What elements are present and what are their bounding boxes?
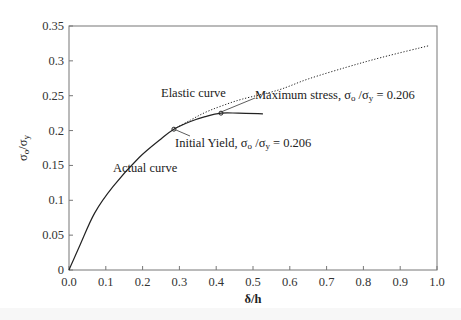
x-axis-ticks: 0.00.10.20.30.40.50.60.70.80.91.0 xyxy=(61,266,445,289)
x-axis-label: δ/h xyxy=(245,292,262,306)
x-tick-label: 0.5 xyxy=(245,275,261,289)
y-tick-label: 0.2 xyxy=(48,124,64,138)
y-tick-label: 0.3 xyxy=(48,54,64,68)
initial-yield-label: Initial Yield, σo /σy = 0.206 xyxy=(175,136,311,151)
x-tick-label: 0.9 xyxy=(392,275,408,289)
x-tick-label: 0.4 xyxy=(208,275,224,289)
chart: 00.050.10.150.20.250.30.35 0.00.10.20.30… xyxy=(0,0,461,320)
x-tick-label: 0.2 xyxy=(135,275,151,289)
data-series xyxy=(69,46,430,270)
x-tick-label: 0.8 xyxy=(356,275,372,289)
y-tick-label: 0.25 xyxy=(42,89,64,103)
x-tick-label: 0.0 xyxy=(61,275,77,289)
x-tick-label: 0.7 xyxy=(319,275,335,289)
max-stress-label: Maximum stress, σo /σy = 0.206 xyxy=(255,88,415,103)
y-tick-label: 0.15 xyxy=(42,158,64,172)
x-tick-label: 0.6 xyxy=(282,275,298,289)
max-stress-leader-line xyxy=(221,98,255,112)
elastic-curve-label: Elastic curve xyxy=(161,86,226,100)
actual-curve-label: Actual curve xyxy=(113,161,178,175)
x-tick-label: 0.3 xyxy=(172,275,188,289)
y-axis-label: σo/σy xyxy=(16,135,31,161)
bottom-band xyxy=(0,308,461,320)
x-tick-label: 1.0 xyxy=(429,275,445,289)
y-tick-label: 0.35 xyxy=(42,19,64,33)
y-tick-label: 0.05 xyxy=(42,228,64,242)
x-tick-label: 0.1 xyxy=(98,275,114,289)
y-axis-ticks: 00.050.10.150.20.250.30.35 xyxy=(42,19,73,277)
y-tick-label: 0.1 xyxy=(48,193,64,207)
